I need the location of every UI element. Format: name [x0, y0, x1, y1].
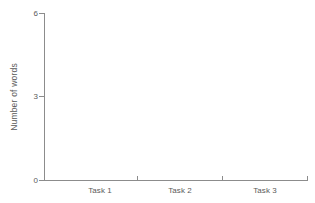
- x-axis-tick-2: [222, 176, 223, 181]
- chart-figure: 6 3 0 Task 1 Task 2 Task 3 Number of wor…: [0, 0, 315, 203]
- x-axis-tick-0: [44, 176, 45, 181]
- y-axis-tick-3: [39, 96, 44, 97]
- y-axis-title: Number of words: [9, 63, 19, 131]
- y-axis-tick-label-6: 6: [33, 9, 38, 18]
- y-axis-tick-label-3: 3: [33, 92, 38, 101]
- x-axis-tick-1: [137, 176, 138, 181]
- x-axis-label-task-2: Task 2: [168, 186, 192, 195]
- x-axis-tick-3: [307, 176, 308, 181]
- plot-area: [45, 13, 308, 180]
- y-axis-tick-label-0: 0: [33, 176, 38, 185]
- x-axis-label-task-3: Task 3: [253, 186, 277, 195]
- x-axis-line: [44, 180, 308, 181]
- y-axis-tick-6: [39, 13, 44, 14]
- x-axis-label-task-1: Task 1: [88, 186, 112, 195]
